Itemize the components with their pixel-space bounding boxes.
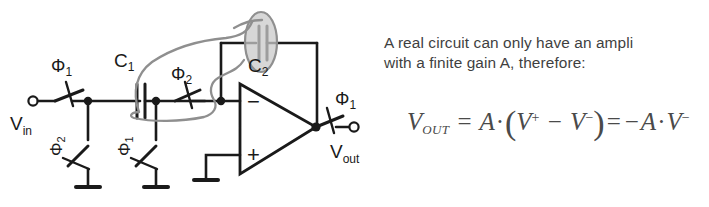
label-phi1-shunt: Φ1 xyxy=(115,136,135,156)
label-vin: Vin xyxy=(10,113,32,138)
formula-v-plus-sup: + xyxy=(532,110,540,125)
formula-dot-1: · xyxy=(495,108,505,135)
label-phi1-output: Φ1 xyxy=(335,89,356,112)
formula-open-paren: ( xyxy=(505,104,516,141)
label-c1: C1 xyxy=(114,50,135,74)
formula-vout-sub: OUT xyxy=(422,122,449,137)
label-opamp-plus: + xyxy=(247,142,260,167)
label-phi2-series: Φ2 xyxy=(171,64,192,87)
label-phi2-shunt: Φ2 xyxy=(47,136,67,156)
line2-prefix: with a finite gain xyxy=(384,54,500,71)
gain-symbol-bold: A xyxy=(500,54,510,71)
label-vout: Vout xyxy=(330,141,360,166)
formula-gain-a: A xyxy=(479,108,494,135)
formula-gain-a-2: A xyxy=(641,108,656,135)
circuit-schematic-svg: Vin Φ1 C1 Φ2 C2 Φ2 Φ1 − + Φ1 Vout xyxy=(0,0,375,207)
switch-output-phi1 xyxy=(316,108,343,133)
formula-equals-1: = xyxy=(455,108,473,135)
paragraph-line-1: A real circuit can only have an ampli xyxy=(384,31,709,54)
circuit-labels: Vin Φ1 C1 Φ2 C2 Φ2 Φ1 − + Φ1 Vout xyxy=(10,50,360,167)
circuit-diagram: Vin Φ1 C1 Φ2 C2 Φ2 Φ1 − + Φ1 Vout xyxy=(0,0,375,207)
formula-dot-2: · xyxy=(656,108,666,135)
formula-close-paren: ) xyxy=(593,104,604,141)
wire-plus-to-ground xyxy=(206,155,240,178)
formula-equals-2: = xyxy=(605,108,623,135)
gain-equation: VOUT = A·(V+ − V−)=−A·V− xyxy=(407,104,690,142)
label-opamp-minus: − xyxy=(247,89,260,114)
formula-negative-sign: − xyxy=(623,108,641,135)
label-phi1-input: Φ1 xyxy=(51,56,72,79)
switch-shunt-phi1 xyxy=(131,146,157,186)
formula-vout: V xyxy=(407,108,422,135)
formula-v-minus-2-sup: − xyxy=(682,110,690,125)
formula-v-minus: V xyxy=(570,108,585,135)
input-terminal-node xyxy=(28,96,37,105)
formula-v-minus-2: V xyxy=(666,108,681,135)
formula-minus: − xyxy=(546,108,564,135)
text-panel: A real circuit can only have an ampli wi… xyxy=(381,0,709,207)
paragraph-line-2: with a finite gain A, therefore: xyxy=(384,54,586,72)
switch-input-phi1 xyxy=(55,82,83,106)
line2-suffix: , therefore: xyxy=(510,54,586,71)
switch-shunt-phi2 xyxy=(63,146,89,186)
output-terminal-node xyxy=(349,122,358,131)
slide-root: Vin Φ1 C1 Φ2 C2 Φ2 Φ1 − + Φ1 Vout A real… xyxy=(0,0,709,207)
formula-v-plus: V xyxy=(516,108,531,135)
